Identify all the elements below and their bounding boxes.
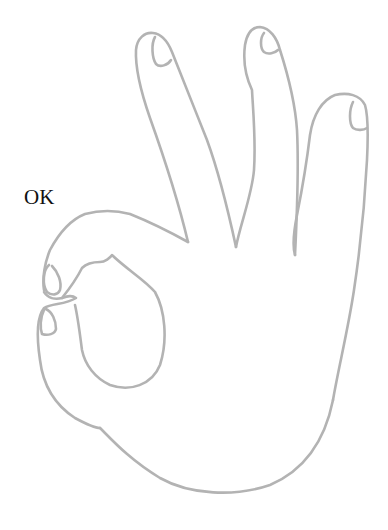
thumb-outline [38, 292, 100, 428]
index-finger-outline [136, 33, 236, 247]
thumbnail [41, 309, 56, 335]
palm-outline [100, 400, 333, 493]
curled-index-tip-nail [44, 265, 61, 294]
ok-hand-drawing [0, 0, 388, 530]
index-fingernail [152, 37, 171, 66]
middle-finger-outline [236, 27, 298, 255]
ring-finger-outline [294, 94, 368, 400]
curled-index-top-outline [43, 211, 188, 290]
inner-loop-outline [62, 255, 165, 388]
